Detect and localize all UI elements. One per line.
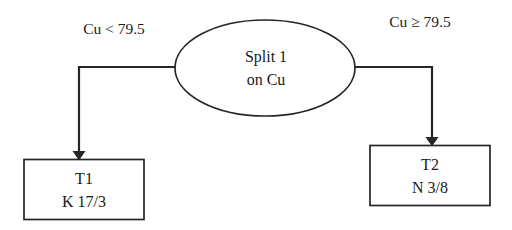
edge-label-right: Cu ≥ 79.5 <box>389 13 451 30</box>
leaf-t2-line1: T2 <box>421 156 439 173</box>
root-node-split-1[interactable]: Split 1 on Cu <box>175 20 355 116</box>
leaf-t2-line2: N 3/8 <box>412 179 448 196</box>
root-node-ellipse-shape <box>175 20 355 116</box>
leaf-t1-line2: K 17/3 <box>62 193 106 210</box>
root-node-line1: Split 1 <box>245 48 287 66</box>
edge-right-path <box>354 67 432 138</box>
leaf-node-t1[interactable]: T1 K 17/3 <box>24 160 144 220</box>
leaf-t1-box-shape <box>24 160 144 220</box>
root-node-line2: on Cu <box>247 71 286 88</box>
edge-label-left: Cu < 79.5 <box>83 20 145 37</box>
edge-left-connector <box>73 67 177 161</box>
edge-right-connector <box>354 67 439 147</box>
leaf-node-t2[interactable]: T2 N 3/8 <box>370 146 490 206</box>
leaf-t1-line1: T1 <box>75 170 93 187</box>
edge-left-path <box>79 67 176 152</box>
decision-tree-diagram: Split 1 on Cu Cu < 79.5 Cu ≥ 79.5 T1 K 1… <box>0 0 512 230</box>
diagram-canvas: Split 1 on Cu Cu < 79.5 Cu ≥ 79.5 T1 K 1… <box>0 0 512 230</box>
leaf-t2-box-shape <box>370 146 490 206</box>
